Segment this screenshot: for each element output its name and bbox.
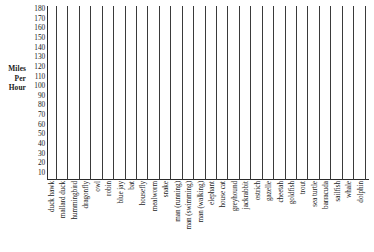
y-axis-line	[47, 6, 48, 180]
x-axis-category-label: robin	[105, 181, 113, 196]
column-divider-line	[319, 6, 320, 180]
y-axis-tick-label: 150	[26, 34, 45, 41]
y-axis-tick-label: 70	[26, 111, 45, 118]
column-divider-line	[216, 6, 217, 180]
y-axis-tick-labels: 1801701601501401301201101009080706050403…	[26, 0, 45, 180]
y-axis-tick-label: 110	[26, 73, 45, 80]
x-axis-category-label: sea turtle	[311, 181, 319, 207]
x-axis-category-label: elephant	[208, 181, 216, 205]
column-divider-line	[193, 6, 194, 180]
x-axis-category-label: ostrich	[254, 181, 262, 200]
x-axis-category-label: owl	[94, 181, 102, 192]
x-axis-category-label: greyhound	[231, 181, 239, 211]
column-divider-line	[205, 6, 206, 180]
x-axis-category-label: trout	[299, 181, 307, 194]
y-axis-tick-label: 140	[26, 44, 45, 51]
y-axis-tick-label: 50	[26, 130, 45, 137]
plot-area	[47, 6, 369, 180]
column-divider-line	[113, 6, 114, 180]
y-axis-tick-label: 40	[26, 140, 45, 147]
column-divider-line	[307, 6, 308, 180]
x-axis-category-label: hummingbird	[71, 181, 79, 220]
column-divider-line	[365, 6, 366, 180]
x-axis-category-label: sailfish	[334, 181, 342, 201]
x-axis-category-label: whale	[345, 181, 353, 198]
y-axis-title-line-2: Per	[0, 74, 26, 84]
column-divider-line	[159, 6, 160, 180]
x-axis-category-label: barracuda	[322, 181, 330, 209]
column-divider-line	[273, 6, 274, 180]
column-divider-line	[79, 6, 80, 180]
column-divider-line	[262, 6, 263, 180]
x-axis-category-label: snake	[162, 181, 170, 197]
x-axis-category-label: bat	[128, 181, 136, 190]
y-axis-tick-label: 130	[26, 53, 45, 60]
column-divider-line	[250, 6, 251, 180]
column-divider-line	[136, 6, 137, 180]
y-axis-title-line-1: Miles	[0, 64, 26, 74]
column-divider-line	[239, 6, 240, 180]
x-axis-category-label: man (walking)	[197, 181, 205, 222]
x-axis-category-label: jackrabbit	[242, 181, 250, 209]
y-axis-title: Miles Per Hour	[0, 64, 26, 93]
y-axis-tick-label: 30	[26, 150, 45, 157]
column-divider-line	[147, 6, 148, 180]
column-divider-line	[67, 6, 68, 180]
y-axis-tick-label: 160	[26, 24, 45, 31]
y-axis-tick-label: 20	[26, 159, 45, 166]
column-divider-line	[330, 6, 331, 180]
column-divider-line	[102, 6, 103, 180]
x-axis-category-label: dolphin	[357, 181, 365, 203]
y-axis-tick-label: 80	[26, 101, 45, 108]
y-axis-tick-label: 180	[26, 5, 45, 12]
column-divider-line	[353, 6, 354, 180]
x-axis-category-label: dragonfly	[82, 181, 90, 209]
column-divider-line	[296, 6, 297, 180]
x-axis-category-label: man (running)	[174, 181, 182, 222]
y-axis-tick-label: 10	[26, 169, 45, 176]
column-divider-line	[285, 6, 286, 180]
y-axis-tick-label: 120	[26, 63, 45, 70]
x-axis-category-label: mallard duck	[59, 181, 67, 218]
column-divider-line	[90, 6, 91, 180]
column-divider-line	[342, 6, 343, 180]
x-axis-category-label: goldfish	[288, 181, 296, 204]
y-axis-tick-label: 90	[26, 92, 45, 99]
x-axis-category-label: blue jay	[117, 181, 125, 204]
column-divider-line	[182, 6, 183, 180]
column-divider-line	[227, 6, 228, 180]
y-axis-tick-label: 170	[26, 15, 45, 22]
x-axis-category-label: house cat	[219, 181, 227, 208]
x-axis-category-labels: duck hawkmallard duckhummingbirddragonfl…	[47, 181, 369, 252]
y-axis-tick-label: 60	[26, 121, 45, 128]
x-axis-category-label: man (swimming)	[185, 181, 193, 230]
column-divider-line	[170, 6, 171, 180]
x-axis-category-label: mealworm	[151, 181, 159, 211]
x-axis-category-label: gazelle	[265, 181, 273, 201]
y-axis-title-line-3: Hour	[0, 83, 26, 93]
bar-chart: Miles Per Hour 1801701601501401301201101…	[0, 0, 374, 252]
column-divider-line	[125, 6, 126, 180]
y-axis-tick-label: 100	[26, 82, 45, 89]
x-axis-category-label: housefly	[139, 181, 147, 205]
column-divider-line	[56, 6, 57, 180]
x-axis-category-label: cheetah	[277, 181, 285, 203]
x-axis-category-label: duck hawk	[48, 181, 56, 212]
